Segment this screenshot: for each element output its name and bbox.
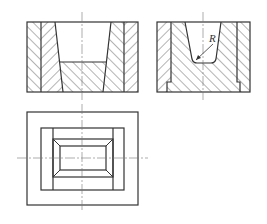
front-section-view — [27, 12, 138, 100]
top-view — [17, 104, 148, 212]
drawing-canvas: R — [0, 0, 267, 224]
drawing-svg — [0, 0, 267, 224]
side-section-view — [157, 12, 250, 100]
radius-label: R — [209, 32, 216, 44]
